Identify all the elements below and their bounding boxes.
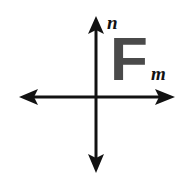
horizontal-axis-label: m [151,64,166,83]
vertical-axis [88,16,104,173]
axes-diagram: n m F [0,0,192,178]
axes-svg [0,0,192,178]
force-symbol: F [110,28,147,90]
